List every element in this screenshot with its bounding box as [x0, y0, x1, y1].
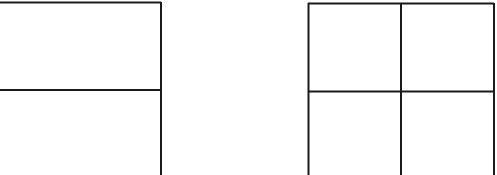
left-figure — [0, 2, 161, 175]
right-figure — [308, 3, 494, 175]
diagram-canvas — [0, 0, 497, 175]
